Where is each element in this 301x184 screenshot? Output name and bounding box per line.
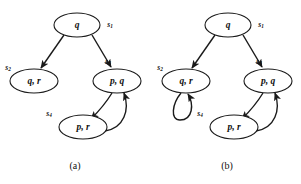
- edge-s2-to-s2: [173, 93, 191, 120]
- state-subscript-s4: 4: [48, 112, 52, 118]
- node-label-s4: p, r: [75, 122, 90, 132]
- node-s4[interactable]: p, rs4: [45, 109, 107, 139]
- state-label-s4: s4: [45, 109, 52, 119]
- node-label-s3: p, q: [109, 76, 125, 86]
- panel-b: qs1q, rs2p, qs3p, rs4(b): [156, 13, 292, 172]
- node-label-s4: p, r: [226, 122, 241, 132]
- node-s1[interactable]: qs1: [205, 13, 264, 37]
- state-label-s1: s1: [106, 20, 113, 30]
- node-label-s2: q, r: [179, 76, 193, 86]
- state-subscript-s1: 1: [261, 23, 264, 29]
- node-s3[interactable]: p, qs3: [244, 57, 292, 93]
- state-label-s2: s2: [156, 63, 163, 73]
- state-label-s3: s3: [104, 57, 111, 67]
- node-s1[interactable]: qs1: [54, 13, 113, 37]
- caption-panel-a: (a): [69, 160, 80, 172]
- state-subscript-s2: 2: [159, 66, 163, 72]
- state-label-s2: s2: [4, 63, 11, 73]
- state-subscript-s3: 3: [258, 60, 262, 66]
- state-transition-diagrams: qs1q, rs2p, qs3p, rs4(a)qs1q, rs2p, qs3p…: [0, 0, 301, 184]
- node-label-s1: q: [226, 20, 231, 30]
- state-subscript-s4: 4: [199, 112, 203, 118]
- caption-panel-b: (b): [221, 160, 233, 172]
- node-label-s2: q, r: [27, 76, 41, 86]
- state-subscript-s3: 3: [107, 60, 111, 66]
- state-label-s1: s1: [257, 20, 264, 30]
- figure-container: qs1q, rs2p, qs3p, rs4(a)qs1q, rs2p, qs3p…: [0, 0, 301, 184]
- node-s3[interactable]: p, qs3: [93, 57, 141, 93]
- edge-s1-to-s2: [41, 35, 64, 68]
- node-label-s1: q: [75, 20, 80, 30]
- state-label-s4: s4: [196, 109, 203, 119]
- node-s2[interactable]: q, rs2: [4, 63, 58, 93]
- node-s4[interactable]: p, rs4: [196, 109, 258, 139]
- node-label-s3: p, q: [260, 76, 276, 86]
- edge-s1-to-s2: [192, 35, 215, 68]
- state-subscript-s2: 2: [7, 66, 11, 72]
- edge-s3-to-s4: [91, 93, 112, 119]
- state-subscript-s1: 1: [110, 23, 113, 29]
- edge-s3-to-s4: [242, 93, 263, 119]
- state-label-s3: s3: [255, 57, 262, 67]
- node-s2[interactable]: q, rs2: [156, 63, 210, 93]
- panel-a: qs1q, rs2p, qs3p, rs4(a): [4, 13, 141, 172]
